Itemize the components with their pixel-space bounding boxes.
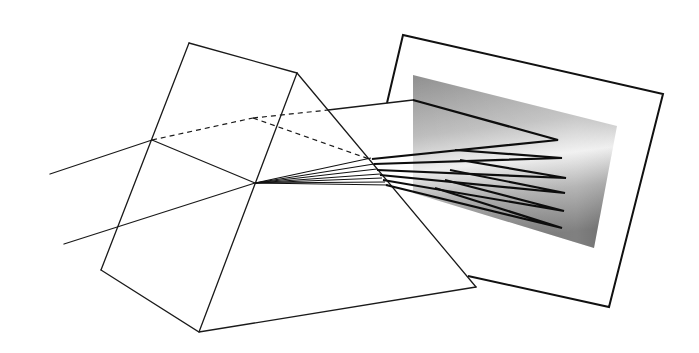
incident-rays xyxy=(50,140,255,244)
prism-hidden-edges xyxy=(152,110,372,160)
prism-top-edge xyxy=(189,43,297,73)
prism-front-edge xyxy=(199,73,297,332)
incident-ray-upper xyxy=(50,140,152,174)
prism-left-edge xyxy=(101,43,189,270)
incident-ray-lower xyxy=(64,183,255,244)
prism-bottom-edges xyxy=(101,270,476,332)
refracted-ray-upper xyxy=(152,140,255,183)
dispersion-fan xyxy=(255,158,388,185)
top-beam xyxy=(328,100,413,110)
diagram-canvas xyxy=(0,0,699,353)
prism-diagram: Prism dispersing light onto a screen xyxy=(0,0,699,353)
